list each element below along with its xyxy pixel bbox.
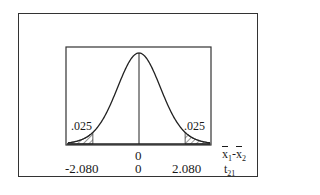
t-axis-label: t21 <box>224 163 235 176</box>
t-pos-critical-tick: 2.080 <box>172 162 201 175</box>
left-tail-area-label: .025 <box>71 120 92 133</box>
t-neg-critical-tick: -2.080 <box>65 162 99 175</box>
mean-diff-axis-label: x1-x2 <box>222 148 246 161</box>
right-tail-area-label: .025 <box>184 120 205 133</box>
t-zero-tick: 0 <box>135 162 142 175</box>
